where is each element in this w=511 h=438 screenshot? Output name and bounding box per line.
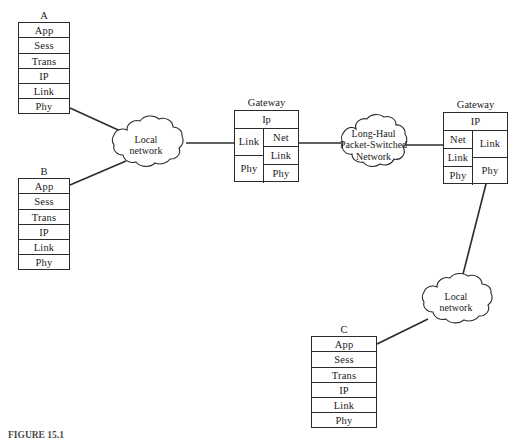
host-c-layer-app: App	[312, 337, 376, 352]
host-b-layer-app: App	[19, 179, 69, 194]
cloud-long-haul-network: Long-Haul Packet-Switched Network	[336, 105, 411, 185]
protocol-stack-host-b: B App Sess Trans IP Link Phy	[18, 178, 70, 270]
gateway-left-layer-link: Link	[235, 129, 263, 156]
host-b-layer-phy: Phy	[19, 255, 69, 270]
host-a-layer-sess: Sess	[19, 38, 69, 53]
gateway-left-layer-net: Net	[264, 129, 298, 147]
gateway-right-label: Gateway	[444, 99, 507, 111]
gateway-left-layer-ip: Ip	[235, 111, 298, 129]
host-c-label: C	[312, 324, 376, 335]
gateway-left-layer-link-2: Link	[264, 147, 298, 165]
gateway-left-layer-phy: Phy	[235, 156, 263, 183]
gateway-right-layer-phy: Phy	[444, 167, 472, 185]
host-c-layer-phy: Phy	[312, 413, 376, 428]
host-b-layer-ip: IP	[19, 225, 69, 240]
host-c-layer-link: Link	[312, 398, 376, 413]
host-a-label: A	[19, 10, 69, 21]
host-a-layer-link: Link	[19, 84, 69, 99]
gateway-right: Gateway IP Net Link Phy Link Phy	[443, 112, 508, 184]
gateway-left-layer-phy-2: Phy	[264, 165, 298, 183]
cloud-outline	[112, 116, 183, 166]
host-a-layer-phy: Phy	[19, 99, 69, 114]
host-a-layer-ip: IP	[19, 69, 69, 84]
host-a-layer-app: App	[19, 23, 69, 38]
gateway-right-layer-link: Link	[444, 149, 472, 167]
gateway-right-layer-ip: IP	[444, 113, 507, 131]
host-b-layer-sess: Sess	[19, 194, 69, 209]
gateway-right-layer-phy-2: Phy	[473, 158, 507, 185]
cloud-outline	[422, 273, 492, 322]
gateway-right-network-side: Link Phy	[473, 131, 507, 185]
gateway-right-layer-link-2: Link	[473, 131, 507, 158]
gateway-left-network-side: Link Phy	[235, 129, 264, 183]
gateway-right-wan-side: Net Link Phy	[444, 131, 473, 185]
gateway-right-layer-net: Net	[444, 131, 472, 149]
protocol-stack-host-a: A App Sess Trans IP Link Phy	[18, 22, 70, 114]
cloud-local-network-bottom: Local network	[414, 265, 498, 339]
figure-caption: FIGURE 15.1	[8, 430, 64, 438]
cloud-outline	[342, 115, 407, 167]
host-c-layer-trans: Trans	[312, 368, 376, 383]
host-a-layer-trans: Trans	[19, 54, 69, 69]
host-c-layer-ip: IP	[312, 383, 376, 398]
host-b-label: B	[19, 166, 69, 177]
host-c-layer-sess: Sess	[312, 352, 376, 367]
gateway-left-label: Gateway	[235, 97, 298, 109]
cloud-local-network-left: Local network	[103, 108, 189, 182]
protocol-stack-host-c: C App Sess Trans IP Link Phy	[311, 336, 377, 428]
host-b-layer-trans: Trans	[19, 210, 69, 225]
gateway-left-wan-side: Net Link Phy	[264, 129, 298, 183]
host-b-layer-link: Link	[19, 240, 69, 255]
gateway-left: Gateway Ip Link Phy Net Link Phy	[234, 110, 299, 182]
